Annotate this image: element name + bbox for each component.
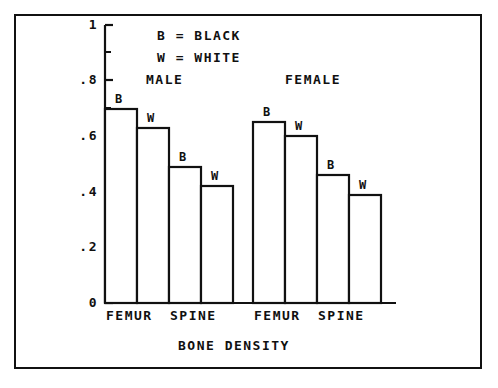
bar-male-spine-black[interactable] xyxy=(169,167,201,303)
bar-label-female-spine-white: W xyxy=(359,178,368,192)
bar-female-spine-black[interactable] xyxy=(317,175,349,303)
bar-label-male-femur-black: B xyxy=(115,92,124,106)
ytick-label-0.8: .8 xyxy=(72,72,98,87)
xcat-label-female-femur: FEMUR xyxy=(254,308,301,323)
ytick-label-1: 1 xyxy=(72,17,98,32)
bar-label-female-femur-black: B xyxy=(263,105,272,119)
ytick-label-0.2: .2 xyxy=(72,239,98,254)
legend-black: B = BLACK xyxy=(157,28,241,43)
xcat-label-female-spine: SPINE xyxy=(318,308,365,323)
bar-female-femur-white[interactable] xyxy=(285,136,317,303)
bar-label-male-spine-black: B xyxy=(179,150,188,164)
xcat-label-male-spine: SPINE xyxy=(170,308,217,323)
bar-male-femur-white[interactable] xyxy=(137,128,169,303)
bar-male-spine-white[interactable] xyxy=(201,186,233,303)
bar-group-male xyxy=(105,109,233,303)
ytick-label-0.6: .6 xyxy=(72,128,98,143)
bar-label-male-spine-white: W xyxy=(211,169,220,183)
xcat-label-male-femur: FEMUR xyxy=(106,308,153,323)
bone-density-figure: 1 .8 .6 .4 .2 0 B = BLACK W = WHITE MALE… xyxy=(0,0,498,388)
bar-label-male-femur-white: W xyxy=(147,111,156,125)
bar-female-femur-black[interactable] xyxy=(253,122,285,303)
group-label-female: FEMALE xyxy=(285,72,341,87)
x-axis-title: BONE DENSITY xyxy=(178,338,290,353)
bar-label-female-spine-black: B xyxy=(327,158,336,172)
bar-group-female xyxy=(253,122,381,303)
legend-white: W = WHITE xyxy=(157,50,241,65)
bar-male-femur-black[interactable] xyxy=(105,109,137,303)
ytick-label-0.4: .4 xyxy=(72,184,98,199)
ytick-label-0: 0 xyxy=(72,295,98,310)
bar-female-spine-white[interactable] xyxy=(349,195,381,303)
group-label-male: MALE xyxy=(146,72,183,87)
bar-label-female-femur-white: W xyxy=(295,119,304,133)
